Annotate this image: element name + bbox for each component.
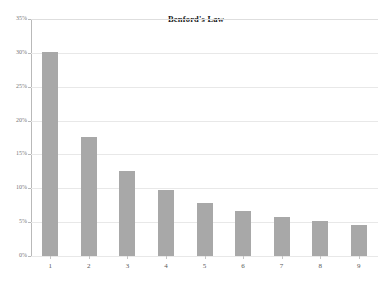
y-axis-label-15%: 15% <box>1 150 27 156</box>
x-axis-label-6: 6 <box>233 262 253 270</box>
y-tick-mark <box>28 19 31 20</box>
y-axis-label-20%: 20% <box>1 117 27 123</box>
x-axis-label-9: 9 <box>349 262 369 270</box>
x-axis-label-3: 3 <box>117 262 137 270</box>
x-axis-label-4: 4 <box>156 262 176 270</box>
x-tick-mark <box>89 256 90 259</box>
bar-4 <box>158 190 174 256</box>
x-tick-mark <box>320 256 321 259</box>
x-axis-label-5: 5 <box>195 262 215 270</box>
x-axis-label-2: 2 <box>79 262 99 270</box>
y-axis-label-35%: 35% <box>1 15 27 21</box>
y-tick-mark <box>28 87 31 88</box>
y-tick-mark <box>28 188 31 189</box>
bar-2 <box>81 137 97 256</box>
bar-9 <box>351 225 367 256</box>
x-axis-label-8: 8 <box>310 262 330 270</box>
gridline-35% <box>31 19 378 20</box>
plot-area <box>31 19 378 256</box>
y-axis-label-5%: 5% <box>1 218 27 224</box>
bar-5 <box>197 203 213 256</box>
x-tick-mark <box>50 256 51 259</box>
gridline-30% <box>31 53 378 54</box>
x-axis-label-7: 7 <box>272 262 292 270</box>
y-tick-mark <box>28 53 31 54</box>
x-tick-mark <box>166 256 167 259</box>
bar-8 <box>312 221 328 256</box>
bar-3 <box>119 171 135 256</box>
x-tick-mark <box>127 256 128 259</box>
y-axis-label-30%: 30% <box>1 49 27 55</box>
x-tick-mark <box>282 256 283 259</box>
x-tick-mark <box>205 256 206 259</box>
x-axis-label-1: 1 <box>40 262 60 270</box>
y-axis-label-10%: 10% <box>1 184 27 190</box>
y-tick-mark <box>28 121 31 122</box>
x-tick-mark <box>243 256 244 259</box>
benfords-law-bar-chart: Benford's Law 0%5%10%15%20%25%30%35% 123… <box>0 0 392 289</box>
gridline-25% <box>31 87 378 88</box>
gridline-20% <box>31 121 378 122</box>
y-tick-mark <box>28 154 31 155</box>
x-tick-mark <box>359 256 360 259</box>
y-axis-label-0%: 0% <box>1 252 27 258</box>
bar-6 <box>235 211 251 256</box>
y-tick-mark <box>28 222 31 223</box>
y-tick-mark <box>28 256 31 257</box>
y-axis-label-25%: 25% <box>1 83 27 89</box>
bar-1 <box>42 52 58 256</box>
bar-7 <box>274 217 290 256</box>
